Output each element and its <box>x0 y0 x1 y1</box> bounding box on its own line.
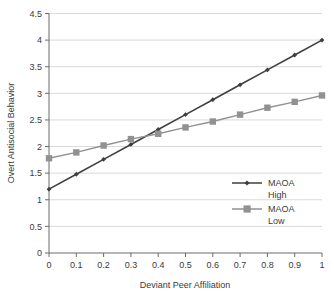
data-point-marker <box>46 155 52 161</box>
legend-label-line2: Low <box>268 216 285 226</box>
data-point-marker <box>210 118 216 124</box>
y-tick-label: 2.5 <box>29 115 42 125</box>
y-tick-label: 4 <box>37 35 42 45</box>
y-tick-label: 3 <box>37 89 42 99</box>
data-point-marker <box>155 131 161 137</box>
legend-label-line1: MAOA <box>268 178 295 188</box>
line-chart: 00.511.522.533.544.5 00.10.20.30.40.50.6… <box>0 0 334 292</box>
chart-figure: 00.511.522.533.544.5 00.10.20.30.40.50.6… <box>0 0 334 292</box>
x-tick-label: 1 <box>319 260 324 270</box>
x-tick-label: 0.3 <box>125 260 138 270</box>
x-tick-label: 0.2 <box>97 260 110 270</box>
legend-label-line2: High <box>268 190 287 200</box>
data-point-marker <box>182 124 188 130</box>
x-axis-title: Deviant Peer Affiliation <box>140 280 230 290</box>
data-point-marker <box>100 142 106 148</box>
y-tick-label: 0.5 <box>29 222 42 232</box>
x-tick-label: 0.5 <box>179 260 192 270</box>
x-tick-label: 0.1 <box>70 260 83 270</box>
y-tick-label: 3.5 <box>29 62 42 72</box>
y-tick-label: 4.5 <box>29 9 42 19</box>
data-point-marker <box>319 92 325 98</box>
data-point-marker <box>292 99 298 105</box>
x-tick-label: 0.4 <box>152 260 165 270</box>
x-tick-label: 0 <box>46 260 51 270</box>
y-tick-label: 1.5 <box>29 168 42 178</box>
data-point-marker <box>264 105 270 111</box>
x-tick-label: 0.8 <box>261 260 274 270</box>
legend-label-line1: MAOA <box>268 204 295 214</box>
y-tick-label: 1 <box>37 195 42 205</box>
y-tick-label: 0 <box>37 248 42 258</box>
y-tick-label: 2 <box>37 142 42 152</box>
x-tick-label: 0.7 <box>234 260 247 270</box>
legend-square-marker <box>244 205 251 212</box>
data-point-marker <box>73 149 79 155</box>
data-point-marker <box>237 111 243 117</box>
chart-background <box>0 0 334 292</box>
data-point-marker <box>128 136 134 142</box>
x-tick-label: 0.6 <box>207 260 220 270</box>
x-tick-label: 0.9 <box>288 260 301 270</box>
y-axis-title: Overt Antisocial Behavior <box>6 83 16 184</box>
